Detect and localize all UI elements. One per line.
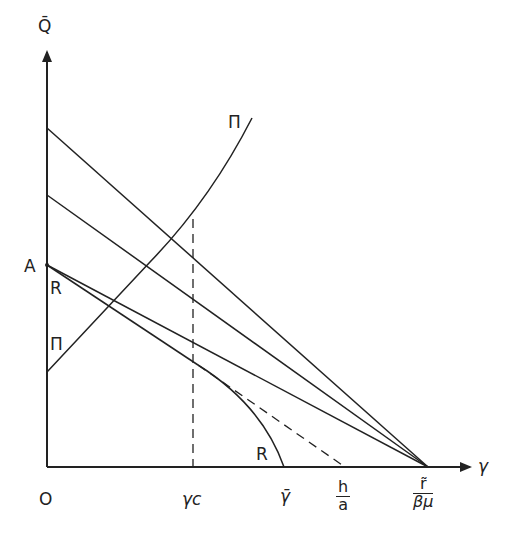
r-curve-label-bottom: R (256, 446, 268, 463)
h-over-a-tick-label: h a (336, 479, 350, 514)
beta-mu-denominator: βμ (413, 494, 433, 511)
gamma-bar-tick-label: γ̄ (280, 488, 290, 505)
gamma-c-tick-label: γc (182, 491, 201, 508)
iso-line-3 (47, 265, 428, 467)
origin-label: O (39, 491, 52, 508)
r-curve (198, 365, 284, 467)
r-curve-label-top: R (50, 280, 62, 297)
r-tilde-over-beta-mu-tick-label: r̃ βμ (413, 476, 433, 511)
h-over-a-denominator: a (336, 497, 350, 514)
y-axis-label: Q̄ (38, 18, 51, 35)
pi-curve-label-bottom: Π (50, 336, 63, 353)
iso-line-2 (47, 195, 428, 467)
point-a-label: A (24, 258, 36, 275)
iso-line-1 (47, 128, 428, 467)
iso-line-4 (47, 265, 198, 365)
point-a-dot (45, 263, 49, 267)
pi-curve-label-top: Π (228, 114, 241, 131)
x-axis-label: γ (478, 458, 488, 475)
